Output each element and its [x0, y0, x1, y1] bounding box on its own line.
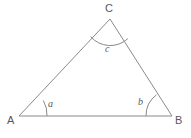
vertex-label-c: C [105, 3, 113, 14]
angle-label-a: a [48, 99, 53, 109]
vertex-label-a: A [7, 115, 15, 126]
triangle-drawing-canvas [0, 0, 191, 138]
angle-label-c: c [105, 44, 109, 54]
angle-arc-a [43, 101, 47, 117]
vertex-label-b: B [175, 115, 183, 126]
angle-label-b: b [138, 97, 143, 107]
triangle-diagram: C A B c a b [0, 0, 191, 138]
triangle-outline [19, 19, 172, 116]
angle-arc-b [146, 95, 157, 116]
